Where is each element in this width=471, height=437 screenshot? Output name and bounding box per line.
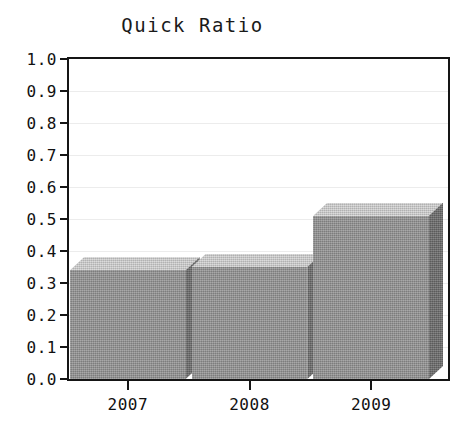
y-axis-label: 0.1 [14,338,57,357]
chart-title: Quick Ratio [0,14,385,36]
x-axis-label: 2008 [210,395,290,414]
y-axis-label: 0.5 [14,210,57,229]
bar-top-face [192,254,322,267]
y-axis-tick [60,122,67,124]
y-axis-label: 0.0 [14,370,57,389]
x-axis-label: 2009 [331,395,411,414]
y-axis-tick [60,378,67,380]
x-axis-tick [127,381,129,390]
bar-top-face [70,257,200,270]
y-axis-label: 1.0 [14,50,57,69]
x-axis-tick [370,381,372,390]
y-axis-tick [60,90,67,92]
bar-front-face [70,270,186,379]
y-axis-tick [60,346,67,348]
y-axis-label: 0.7 [14,146,57,165]
y-axis-tick [60,250,67,252]
y-axis-tick [60,58,67,60]
y-axis-label: 0.3 [14,274,57,293]
bar[interactable] [313,203,443,379]
x-axis-tick [249,381,251,390]
bar[interactable] [70,257,200,379]
y-axis-label: 0.8 [14,114,57,133]
bar-top-face [313,203,443,216]
y-axis-label: 0.9 [14,82,57,101]
gridline [69,155,448,156]
y-axis-label: 0.4 [14,242,57,261]
bar-front-face [313,216,429,379]
y-axis-tick [60,314,67,316]
gridline [69,123,448,124]
bar-side-face [429,203,443,379]
y-axis-label: 0.2 [14,306,57,325]
gridline [69,91,448,92]
y-axis-tick [60,186,67,188]
plot-area [67,57,450,381]
y-axis-label: 0.6 [14,178,57,197]
y-axis-tick [60,154,67,156]
x-axis-label: 2007 [88,395,168,414]
bar-front-face [192,267,308,379]
y-axis-tick [60,218,67,220]
bar[interactable] [192,254,322,379]
y-axis-tick [60,282,67,284]
gridline [69,187,448,188]
chart-screenshot: Quick Ratio 0.00.10.20.30.40.50.60.70.80… [0,0,471,437]
